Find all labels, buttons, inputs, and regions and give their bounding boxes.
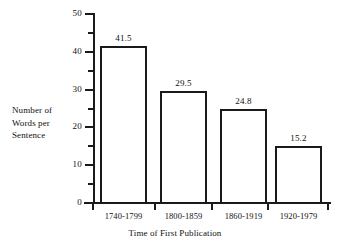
x-axis-tick-label: 1800-1859	[152, 211, 216, 221]
bar[interactable]	[160, 91, 207, 204]
x-axis-tick-label: 1740-1799	[92, 211, 156, 221]
y-axis-tick-label: 40	[58, 47, 82, 56]
y-axis-tick-minor	[88, 145, 94, 147]
y-axis-tick-label: 50	[58, 9, 82, 18]
y-axis-tick-minor	[88, 183, 94, 185]
y-axis-title: Number of Words per Sentence	[12, 104, 82, 142]
bar-chart: 01020304050 41.529.524.815.2 1740-179918…	[0, 0, 350, 244]
y-axis-tick-minor	[88, 108, 94, 110]
bar[interactable]	[100, 46, 147, 204]
y-axis-tick-label: 10	[58, 160, 82, 169]
y-axis-tick-major	[85, 13, 94, 15]
y-axis-tick-major	[85, 164, 94, 166]
bar-value-label: 41.5	[92, 33, 155, 43]
bar-value-label: 15.2	[267, 133, 330, 143]
y-axis-tick-major	[85, 89, 94, 91]
y-axis-title-line-1: Number of	[12, 104, 82, 117]
y-axis-tick-label: 0	[58, 198, 82, 207]
y-axis-title-line-2: Words per	[12, 117, 82, 130]
x-axis-tick	[154, 203, 156, 210]
x-axis-tick	[267, 203, 269, 210]
bar[interactable]	[220, 109, 267, 204]
y-axis-tick-label: 30	[58, 85, 82, 94]
x-axis-title: Time of First Publication	[0, 228, 350, 239]
x-axis-tick	[327, 203, 329, 210]
y-axis-tick-minor	[88, 70, 94, 72]
x-axis-tick	[92, 203, 94, 210]
y-axis-tick-major	[85, 126, 94, 128]
x-axis-tick-label: 1920-1979	[267, 211, 331, 221]
bar-value-label: 29.5	[152, 78, 215, 88]
y-axis-tick-major	[85, 51, 94, 53]
y-axis-title-line-3: Sentence	[12, 129, 82, 142]
x-axis-tick	[211, 203, 213, 210]
bar-value-label: 24.8	[212, 96, 275, 106]
bar[interactable]	[275, 146, 322, 204]
